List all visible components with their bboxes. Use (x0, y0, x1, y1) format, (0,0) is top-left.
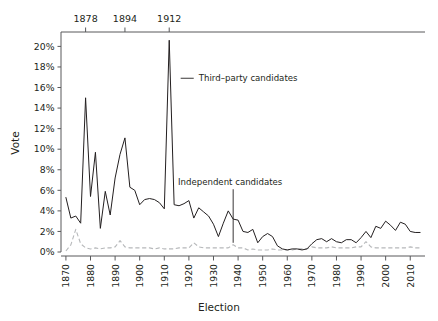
y-tick-label: 16% (34, 82, 55, 93)
y-tick-label: 8% (40, 164, 55, 175)
x-tick-label: 1930 (208, 264, 219, 288)
annotation-label: Third–party candidates (198, 73, 298, 83)
annotation-label: Independent candidates (178, 177, 283, 187)
y-axis-title: Vote (9, 131, 21, 154)
chart-figure: 187818941912 0%2%4%6%8%10%12%14%16%18%20… (0, 0, 438, 321)
top-tick-label: 1878 (74, 13, 98, 24)
y-tick-label: 18% (34, 61, 55, 72)
chart-annotations: Third–party candidatesIndependent candid… (178, 73, 298, 242)
x-tick-label: 1950 (257, 264, 268, 288)
x-axis-tick-labels: 1870188018901900191019201930194019501960… (60, 264, 415, 288)
x-tick-label: 1900 (134, 264, 145, 288)
x-tick-label: 1960 (282, 264, 293, 288)
x-tick-label: 1940 (232, 264, 243, 288)
y-tick-label: 0% (40, 246, 55, 257)
y-tick-label: 10% (34, 143, 55, 154)
x-tick-label: 1920 (183, 264, 194, 288)
top-axis-ticks (86, 28, 170, 33)
y-axis-tick-labels: 0%2%4%6%8%10%12%14%16%18%20% (34, 41, 55, 258)
x-axis-title: Election (198, 301, 240, 313)
x-tick-label: 1890 (110, 264, 121, 288)
y-tick-label: 4% (40, 205, 55, 216)
top-axis-tick-labels: 187818941912 (74, 13, 182, 24)
series-third-party-candidates (66, 40, 420, 250)
top-tick-label: 1894 (113, 13, 137, 24)
x-tick-label: 1910 (159, 264, 170, 288)
x-tick-label: 1880 (85, 264, 96, 288)
y-axis-ticks (58, 46, 62, 252)
x-tick-label: 1990 (355, 264, 366, 288)
y-tick-label: 14% (34, 102, 55, 113)
y-tick-label: 20% (34, 41, 55, 52)
x-axis-ticks (66, 256, 410, 261)
y-tick-label: 12% (34, 123, 55, 134)
x-tick-label: 1870 (60, 264, 71, 288)
x-tick-label: 2010 (405, 264, 416, 288)
vote-share-line-chart: 187818941912 0%2%4%6%8%10%12%14%16%18%20… (0, 0, 438, 321)
x-tick-label: 1980 (331, 264, 342, 288)
x-tick-label: 1970 (306, 264, 317, 288)
y-tick-label: 6% (40, 185, 55, 196)
y-tick-label: 2% (40, 226, 55, 237)
top-tick-label: 1912 (157, 13, 181, 24)
x-tick-label: 2000 (380, 264, 391, 288)
